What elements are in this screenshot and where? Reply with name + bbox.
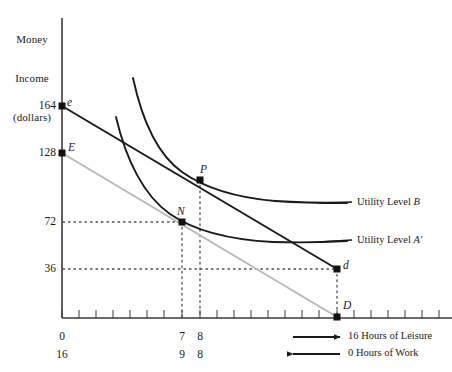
y-axis-title-line-2: Income — [6, 72, 58, 85]
marker-point-E — [59, 150, 66, 157]
point-label-d: d — [343, 259, 349, 273]
y-axis-title-line-3: (dollars) — [6, 111, 58, 124]
y-tick-label-36: 36 — [16, 262, 56, 276]
plot-point-markers — [59, 103, 341, 321]
x-tick-label-work-16: 16 — [50, 348, 74, 362]
budget-line-e-d — [62, 106, 337, 269]
y-axis-title-line-1: Money — [6, 33, 58, 46]
y-tick-label-128: 128 — [16, 146, 56, 160]
point-label-e: e — [67, 96, 72, 110]
curve-label-utility-level-b: Utility Level B — [357, 196, 420, 208]
x-tick-label-work-8: 8 — [188, 348, 212, 362]
marker-point-P — [197, 177, 204, 184]
leader-utility-b — [318, 202, 352, 203]
marker-point-N — [179, 219, 186, 226]
point-label-D: D — [343, 299, 351, 313]
curve-label-b-symbol: B — [414, 196, 420, 207]
chart-canvas — [0, 0, 452, 372]
marker-point-d — [334, 266, 341, 273]
labor-leisure-indifference-curve-figure: Money Income (dollars) 164 128 72 36 0 7… — [0, 0, 452, 372]
point-label-P: P — [200, 163, 207, 177]
curve-label-a-prime-symbol: A' — [414, 234, 423, 245]
dotted-guide-lines — [63, 180, 338, 317]
curve-label-utility-level-a-prime: Utility Level A' — [357, 234, 422, 246]
curve-label-b-text: Utility Level — [357, 196, 414, 207]
curve-utility-level-b — [133, 78, 347, 203]
marker-point-D — [334, 314, 341, 321]
axes-group — [62, 18, 452, 318]
legend-label-leisure: 16 Hours of Leisure — [348, 330, 432, 342]
y-tick-label-164: 164 — [16, 99, 56, 113]
y-axis-title: Money Income (dollars) — [6, 7, 58, 150]
curve-utility-level-a-prime — [116, 117, 347, 242]
y-tick-label-72: 72 — [16, 215, 56, 229]
legend-label-work: 0 Hours of Work — [348, 347, 418, 359]
marker-point-e — [59, 103, 66, 110]
legend-arrows — [293, 337, 340, 354]
point-label-N: N — [177, 205, 185, 219]
x-axis-ticks — [62, 310, 439, 318]
point-label-E: E — [68, 141, 75, 155]
curve-label-a-prime-text: Utility Level — [357, 234, 414, 245]
x-tick-label-8: 8 — [188, 330, 212, 344]
curve-label-leaders — [318, 202, 352, 242]
x-tick-label-0: 0 — [50, 330, 74, 344]
